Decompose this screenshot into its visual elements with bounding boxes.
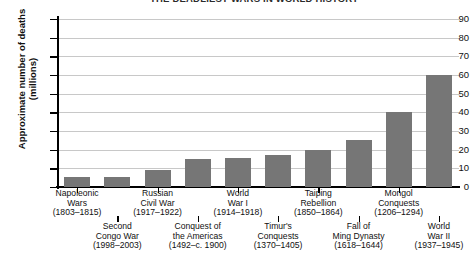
y-axis-tick-mark [50,38,57,39]
chart-title-clipped: THE DEADLIEST WARS IN WORLD HISTORY [150,0,450,5]
x-axis-label-line: (1937–1945) [397,241,474,251]
bar [426,75,452,187]
x-axis-label-line: (1206–1294) [357,208,441,218]
x-axis-label: Fall ofMing Dynasty(1618–1644) [317,222,401,251]
y-axis-title: Approximate number of deaths (millions) [16,0,38,169]
x-axis-label: SecondCongo War(1998–2003) [75,222,159,251]
bar [104,177,130,187]
bar [346,140,372,187]
y-axis-tick-mark [50,56,57,57]
bar [225,158,251,187]
x-axis-label: NapoleonicWars(1803–1815) [35,189,119,218]
x-axis-label-line: (1492–c. 1900) [156,241,240,251]
y-axis-tick-mark [50,112,57,113]
bar [305,150,331,187]
x-axis-label: Timur'sConquests(1370–1405) [236,222,320,251]
bar [145,170,171,187]
x-axis-label-line: (1618–1644) [317,241,401,251]
y-axis-tick-mark [50,131,57,132]
x-axis-label-line: (1917–1922) [116,208,200,218]
y-axis-title-line1: Approximate number of deaths [16,9,27,149]
x-axis-label: MongolConquests(1206–1294) [357,189,441,218]
y-axis-tick-mark [50,150,57,151]
x-axis-label-line: (1370–1405) [236,241,320,251]
bars-container [57,18,459,187]
bar [265,155,291,187]
x-axis-label-line: (1998–2003) [75,241,159,251]
x-axis-label: TaipingRebellion(1850–1864) [276,189,360,218]
chart-title: THE DEADLIEST WARS IN WORLD HISTORY [150,0,359,4]
y-axis-title-line2: (millions) [27,58,38,100]
y-axis-tick-mark [50,75,57,76]
bar [185,159,211,187]
y-axis-tick-mark [50,19,57,20]
x-axis-label-line: (1850–1864) [276,208,360,218]
x-axis-label: WorldWar I(1914–1918) [196,189,280,218]
x-axis-label: RussianCivil War(1917–1922) [116,189,200,218]
y-axis-tick-mark [50,168,57,169]
bar [386,112,412,187]
x-axis-label: Conquest ofthe Americas(1492–c. 1900) [156,222,240,251]
x-axis-label: WorldWar II(1937–1945) [397,222,474,251]
x-axis-label-line: (1803–1815) [35,208,119,218]
bar [64,177,90,187]
x-axis-label-line: (1914–1918) [196,208,280,218]
y-axis-tick-mark [50,94,57,95]
